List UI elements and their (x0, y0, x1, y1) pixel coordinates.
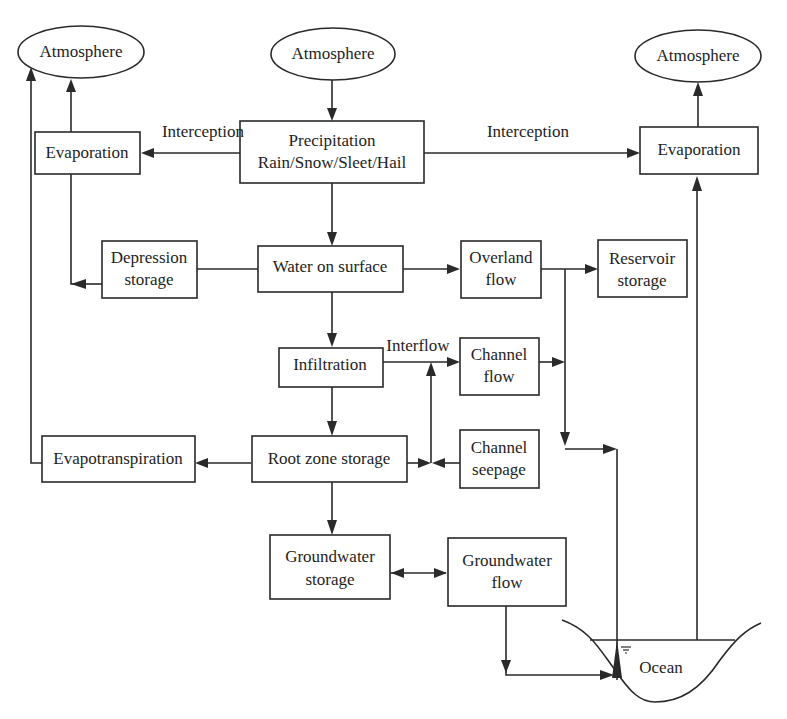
node-label: Infiltration (293, 355, 367, 374)
node-label-line1: Reservoir (609, 249, 675, 268)
arrowhead-down-icon (327, 108, 337, 121)
arrowhead-down-icon (327, 520, 337, 535)
node-label-line1: Channel (471, 345, 528, 364)
arrowhead-right-icon (603, 444, 617, 454)
node-label-line2: Rain/Snow/Sleet/Hail (258, 153, 407, 172)
node-infiltration: Infiltration (279, 348, 383, 387)
node-label-line1: Groundwater (285, 547, 375, 566)
arrowhead-up-icon (66, 79, 76, 92)
node-label: Atmosphere (291, 44, 374, 63)
water-level-icon (621, 647, 631, 653)
arrowhead-right-icon (447, 357, 460, 367)
node-atmosphere-right: Atmosphere (635, 30, 761, 82)
arrowhead-left-icon (141, 148, 154, 158)
arrowhead-down-icon (560, 432, 570, 446)
node-label: Root zone storage (268, 449, 391, 468)
edge-label-interflow: Interflow (386, 336, 450, 355)
node-label-line2: seepage (472, 460, 526, 479)
arrowhead-right-icon (627, 148, 640, 158)
arrowhead-left-icon (195, 458, 208, 468)
arrowhead-up-icon (693, 82, 703, 96)
hydrologic-cycle-diagram: Atmosphere Atmosphere Atmosphere Precipi… (0, 0, 787, 719)
node-label: Ocean (639, 658, 683, 677)
node-label-line1: Precipitation (289, 131, 376, 150)
arrowhead-right-icon (585, 264, 598, 274)
arrowhead-up-icon (426, 362, 436, 376)
node-root-zone-storage: Root zone storage (252, 436, 407, 482)
arrowhead-left-icon (391, 568, 404, 578)
arrowhead-left-icon (432, 458, 445, 468)
node-reservoir-storage: Reservoir storage (598, 240, 687, 297)
node-label: Water on surface (273, 257, 388, 276)
node-overland-flow: Overland flow (461, 241, 541, 298)
node-label-line2: storage (305, 570, 354, 589)
node-channel-flow: Channel flow (460, 338, 539, 395)
arrowhead-right-icon (418, 458, 431, 468)
node-label-line2: storage (617, 271, 666, 290)
node-label-line2: storage (124, 270, 173, 289)
node-ocean: Ocean (562, 620, 761, 702)
node-atmosphere-left: Atmosphere (18, 26, 144, 78)
node-label-line1: Overland (469, 248, 533, 267)
arrowhead-down-icon (327, 333, 337, 347)
arrowhead-right-icon (552, 357, 565, 367)
node-label-line2: flow (491, 573, 523, 592)
node-label-line2: flow (483, 367, 515, 386)
node-label: Atmosphere (656, 46, 739, 65)
node-evaporation-left: Evaporation (35, 132, 140, 174)
arrowhead-right-icon (600, 670, 614, 680)
node-groundwater-storage: Groundwater storage (270, 535, 390, 599)
node-label-line2: flow (485, 270, 517, 289)
node-evaporation-right: Evaporation (640, 127, 758, 174)
node-precipitation: Precipitation Rain/Snow/Sleet/Hail (240, 121, 424, 183)
arrowhead-down-icon (327, 232, 337, 246)
arrowhead-up-icon (692, 176, 702, 191)
node-depression-storage: Depression storage (102, 241, 197, 298)
node-channel-seepage: Channel seepage (460, 430, 539, 488)
node-label: Evaporation (45, 143, 129, 162)
edge-label-interception-right: Interception (487, 122, 570, 141)
arrowhead-right-icon (434, 568, 447, 578)
arrowhead-right-icon (447, 264, 460, 274)
node-label-line1: Channel (471, 438, 528, 457)
node-water-on-surface: Water on surface (258, 246, 403, 292)
node-label: Evapotranspiration (53, 449, 183, 468)
arrowhead-down-icon (501, 660, 511, 673)
node-groundwater-flow: Groundwater flow (448, 538, 566, 606)
node-evapotranspiration: Evapotranspiration (42, 436, 195, 482)
edge-label-interception-left: Interception (162, 122, 245, 141)
node-label-line1: Groundwater (462, 551, 552, 570)
edge-depression-to-evaporation (71, 174, 82, 284)
arrowhead-down-icon (327, 421, 337, 436)
node-label: Evaporation (657, 140, 741, 159)
arrowhead-left-icon (71, 279, 86, 289)
node-label: Atmosphere (39, 42, 122, 61)
node-atmosphere-center: Atmosphere (271, 28, 395, 80)
node-label-line1: Depression (111, 248, 188, 267)
